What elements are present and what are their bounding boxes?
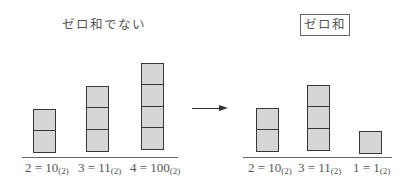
left-stack-3 (141, 63, 164, 150)
arrow-right-icon (192, 108, 221, 110)
label-value: 3 = 11 (78, 160, 111, 175)
block (33, 130, 56, 153)
block (307, 128, 330, 151)
block (86, 107, 109, 130)
right-label-2: 3 = 11(2) (298, 160, 341, 179)
block (86, 86, 109, 109)
label-base: (2) (111, 166, 122, 176)
label-base: (2) (380, 166, 391, 176)
right-label-3: 1 = 1(2) (353, 160, 390, 179)
block (256, 129, 279, 152)
left-baseline (22, 157, 178, 158)
label-value: 4 = 100 (130, 160, 170, 175)
left-stack-2 (86, 86, 109, 152)
label-value: 1 = 1 (353, 160, 380, 175)
right-stack-2 (307, 85, 330, 151)
left-label-2: 3 = 11(2) (78, 160, 121, 179)
block (141, 63, 164, 86)
block (307, 106, 330, 129)
label-value: 2 = 10 (248, 160, 281, 175)
label-value: 3 = 11 (298, 160, 331, 175)
right-label-1: 2 = 10(2) (248, 160, 292, 179)
right-baseline (243, 157, 392, 158)
block (141, 84, 164, 107)
block (141, 106, 164, 129)
label-value: 2 = 10 (25, 160, 58, 175)
left-label-1: 2 = 10(2) (25, 160, 69, 179)
block (307, 85, 330, 108)
left-panel-title: ゼロ和でない (62, 17, 146, 33)
left-label-3: 4 = 100(2) (130, 160, 180, 179)
right-stack-1 (256, 108, 279, 152)
block (86, 129, 109, 152)
block (256, 108, 279, 131)
label-base: (2) (58, 166, 69, 176)
arrow-head-icon (219, 105, 228, 111)
right-panel-title: ゼロ和 (300, 14, 350, 36)
label-base: (2) (281, 166, 292, 176)
label-base: (2) (331, 166, 342, 176)
block (359, 131, 382, 154)
right-stack-3 (359, 131, 382, 154)
label-base: (2) (170, 166, 181, 176)
block (33, 109, 56, 132)
block (141, 127, 164, 150)
left-stack-1 (33, 109, 56, 153)
